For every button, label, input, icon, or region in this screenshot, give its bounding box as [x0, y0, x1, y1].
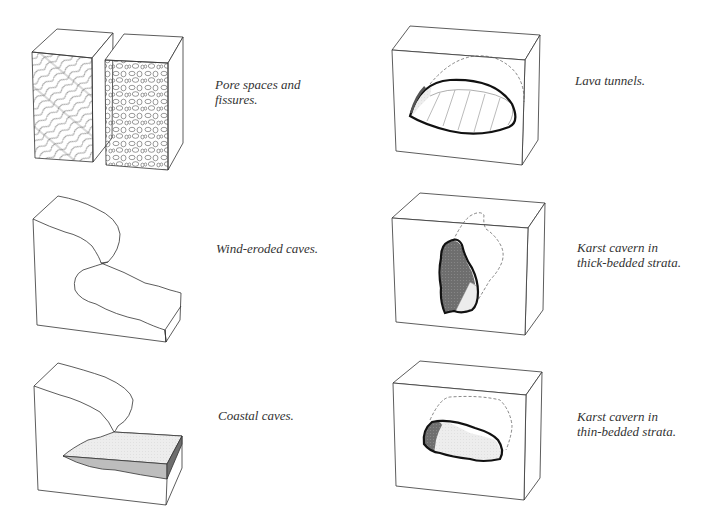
- caption-pore-fissures: Pore spaces and fissures.: [215, 77, 300, 107]
- panel-karst-thick: [392, 193, 545, 335]
- caption-coastal: Coastal caves.: [218, 408, 294, 423]
- caption-karst-thin: Karst cavern in thin-bedded strata.: [577, 409, 676, 439]
- caption-lava-tunnels: Lava tunnels.: [575, 73, 645, 88]
- porous-rock-block: [105, 34, 183, 170]
- fissured-rock-block: [32, 29, 113, 162]
- caption-wind-eroded: Wind-eroded caves.: [216, 241, 318, 256]
- panel-pore-fissures: [32, 29, 183, 170]
- panel-wind-eroded: [33, 196, 181, 342]
- panel-lava-tunnels: [392, 26, 540, 165]
- panel-karst-thin: [393, 361, 542, 500]
- panel-coastal: [34, 363, 182, 505]
- caption-karst-thick: Karst cavern in thick-bedded strata.: [577, 240, 681, 270]
